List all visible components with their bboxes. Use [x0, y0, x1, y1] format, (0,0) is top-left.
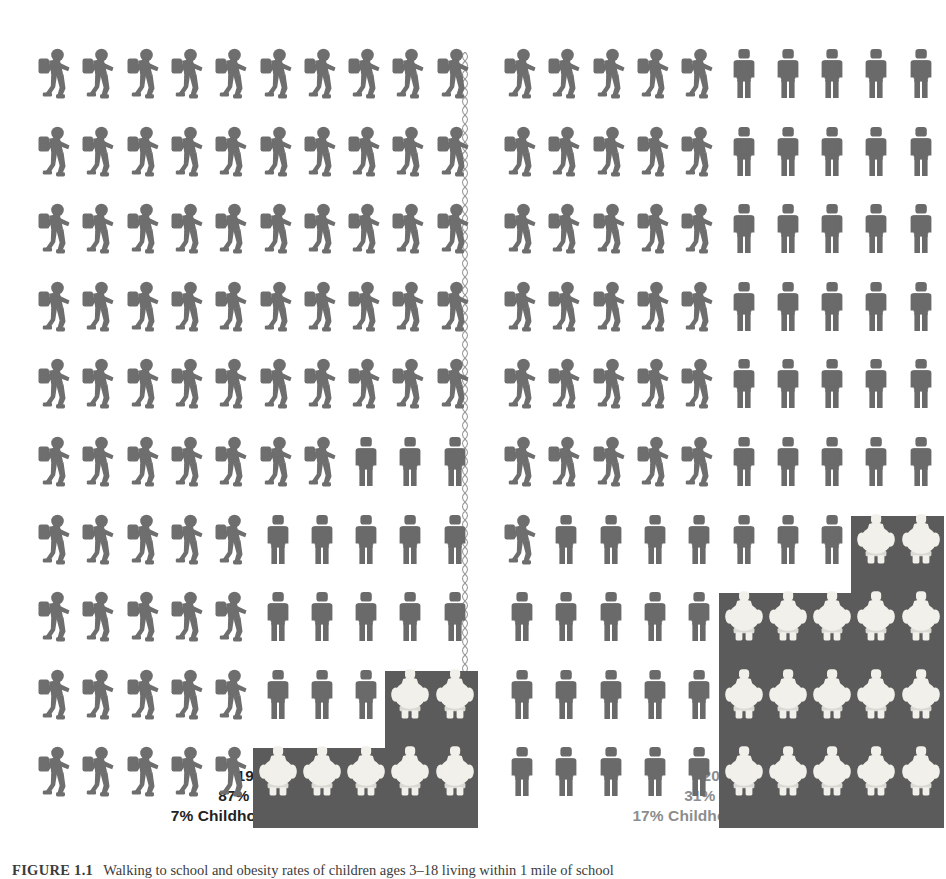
walking-child-figure	[677, 277, 721, 355]
walking-child-with-backpack-icon	[433, 44, 477, 122]
standing-child-figure	[722, 354, 766, 432]
walking-child-with-backpack-icon	[677, 354, 721, 432]
walking-child-figure	[500, 510, 544, 588]
obese-child-figure	[766, 665, 810, 743]
walking-child-figure	[677, 432, 721, 510]
standing-child-figure	[766, 277, 810, 355]
walking-child-with-backpack-icon	[167, 742, 211, 820]
walking-child-with-backpack-icon	[211, 277, 255, 355]
walking-child-with-backpack-icon	[167, 510, 211, 588]
standing-child-icon	[344, 432, 388, 510]
obese-child-figure	[722, 742, 766, 820]
walking-child-with-backpack-icon	[78, 277, 122, 355]
standing-child-icon	[854, 122, 898, 200]
standing-child-figure	[766, 199, 810, 277]
obese-child-figure	[433, 742, 477, 820]
walking-child-figure	[500, 432, 544, 510]
walking-child-figure	[78, 432, 122, 510]
standing-child-figure	[677, 665, 721, 743]
walking-child-with-backpack-icon	[500, 432, 544, 510]
standing-child-figure	[766, 432, 810, 510]
walking-child-with-backpack-icon	[633, 432, 677, 510]
walking-child-figure	[123, 587, 167, 665]
standing-child-figure	[433, 432, 477, 510]
walking-child-figure	[123, 510, 167, 588]
standing-child-figure	[722, 277, 766, 355]
standing-child-icon	[810, 277, 854, 355]
obese-child-icon	[810, 665, 854, 743]
walking-child-with-backpack-icon	[544, 432, 588, 510]
walking-child-with-backpack-icon	[589, 122, 633, 200]
obese-child-icon	[388, 665, 432, 743]
standing-child-icon	[766, 277, 810, 355]
standing-child-icon	[300, 665, 344, 743]
walking-child-with-backpack-icon	[300, 354, 344, 432]
standing-child-icon	[344, 587, 388, 665]
walking-child-figure	[256, 122, 300, 200]
walking-child-figure	[211, 587, 255, 665]
walking-child-figure	[388, 122, 432, 200]
walking-child-figure	[34, 432, 78, 510]
walking-child-with-backpack-icon	[78, 122, 122, 200]
walking-child-figure	[34, 44, 78, 122]
standing-child-icon	[766, 122, 810, 200]
walking-child-with-backpack-icon	[589, 432, 633, 510]
standing-child-figure	[722, 510, 766, 588]
standing-child-figure	[256, 665, 300, 743]
obese-child-figure	[388, 665, 432, 743]
walking-child-figure	[256, 432, 300, 510]
standing-child-icon	[722, 354, 766, 432]
obese-child-icon	[766, 742, 810, 820]
standing-child-figure	[899, 44, 943, 122]
walking-child-figure	[388, 44, 432, 122]
walking-child-figure	[78, 199, 122, 277]
standing-child-figure	[810, 510, 854, 588]
walking-child-figure	[123, 742, 167, 820]
standing-child-icon	[722, 122, 766, 200]
walking-child-figure	[433, 122, 477, 200]
walking-child-with-backpack-icon	[300, 432, 344, 510]
walking-child-figure	[34, 665, 78, 743]
walking-child-with-backpack-icon	[167, 199, 211, 277]
obese-child-figure	[899, 742, 943, 820]
walking-child-with-backpack-icon	[544, 44, 588, 122]
standing-child-figure	[633, 665, 677, 743]
walking-child-figure	[123, 665, 167, 743]
standing-child-figure	[388, 432, 432, 510]
walking-child-figure	[300, 277, 344, 355]
standing-child-icon	[677, 510, 721, 588]
walking-child-figure	[34, 199, 78, 277]
walking-child-with-backpack-icon	[433, 122, 477, 200]
standing-child-figure	[433, 510, 477, 588]
obese-child-figure	[854, 665, 898, 743]
standing-child-icon	[500, 665, 544, 743]
walking-child-figure	[167, 277, 211, 355]
walking-child-figure	[211, 510, 255, 588]
walking-child-with-backpack-icon	[633, 277, 677, 355]
walking-child-figure	[211, 665, 255, 743]
obese-child-icon	[388, 742, 432, 820]
standing-child-figure	[810, 354, 854, 432]
standing-child-icon	[633, 742, 677, 820]
walking-child-figure	[344, 122, 388, 200]
standing-child-figure	[300, 665, 344, 743]
walking-child-figure	[211, 742, 255, 820]
standing-child-icon	[810, 510, 854, 588]
standing-child-figure	[899, 199, 943, 277]
walking-child-with-backpack-icon	[256, 354, 300, 432]
standing-child-icon	[677, 665, 721, 743]
standing-child-figure	[500, 742, 544, 820]
standing-child-icon	[810, 122, 854, 200]
standing-child-figure	[854, 122, 898, 200]
walking-child-figure	[589, 277, 633, 355]
walking-child-figure	[78, 277, 122, 355]
standing-child-figure	[722, 122, 766, 200]
walking-child-with-backpack-icon	[500, 277, 544, 355]
walking-child-with-backpack-icon	[677, 199, 721, 277]
walking-child-figure	[123, 277, 167, 355]
standing-child-figure	[589, 587, 633, 665]
standing-child-icon	[344, 510, 388, 588]
walking-child-with-backpack-icon	[123, 44, 167, 122]
obese-child-figure	[854, 587, 898, 665]
obese-child-icon	[722, 665, 766, 743]
